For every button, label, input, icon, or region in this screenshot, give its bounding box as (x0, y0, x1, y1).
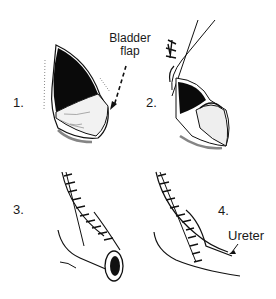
ureter-label: Ureter (228, 229, 264, 242)
panel-1-drawing (44, 45, 126, 142)
panel-2-drawing (166, 20, 229, 148)
panel-3-drawing (58, 172, 125, 281)
panel-2-number: 2. (146, 95, 157, 110)
illustration (0, 0, 276, 299)
panel-4-number: 4. (218, 203, 229, 218)
panel-3-number: 3. (13, 202, 24, 217)
panel-4-drawing (154, 172, 252, 278)
